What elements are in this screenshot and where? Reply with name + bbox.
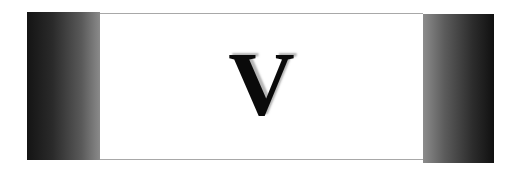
left-gradient-panel: [27, 12, 100, 160]
right-gradient-panel: [423, 14, 494, 163]
chapter-letter: V: [100, 38, 423, 130]
center-panel: V: [100, 13, 423, 160]
